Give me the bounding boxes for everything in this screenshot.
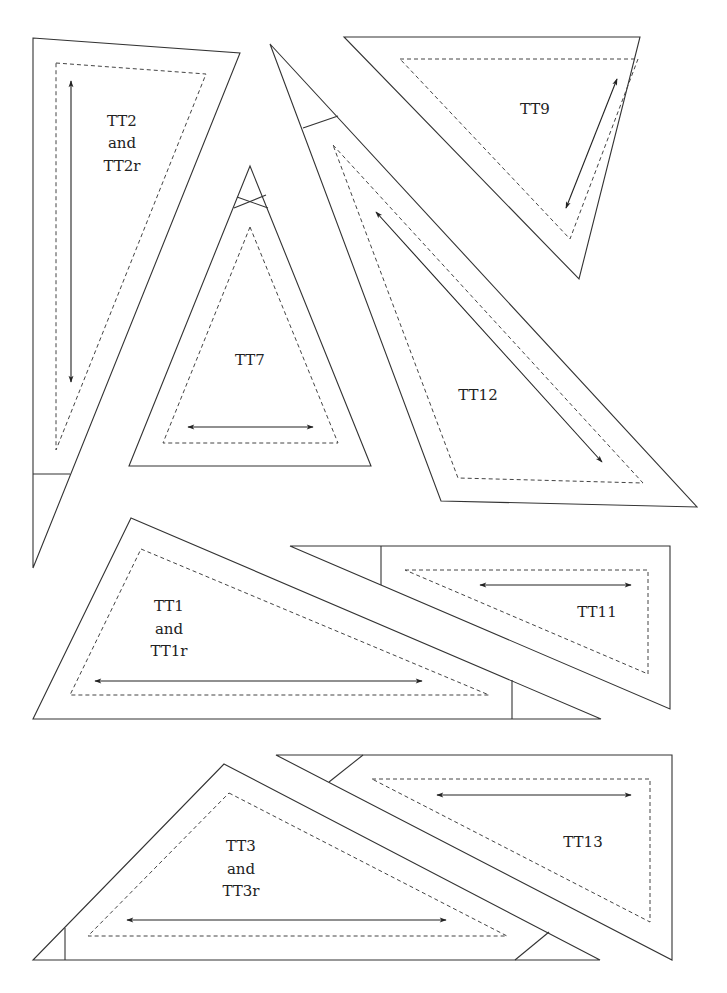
piece-tt13: TT13 xyxy=(276,755,672,960)
piece-label: and xyxy=(227,860,256,878)
piece-label: TT12 xyxy=(458,386,497,404)
seam-line xyxy=(88,793,507,936)
piece-tt9: TT9 xyxy=(344,37,640,279)
cut-line xyxy=(33,764,600,960)
piece-tt7: TT7 xyxy=(129,166,371,466)
piece-label: TT7 xyxy=(235,351,265,369)
piece-label: TT11 xyxy=(577,603,616,621)
cut-line xyxy=(33,518,601,719)
cut-line xyxy=(290,546,670,709)
grainline-arrow-icon xyxy=(376,212,602,462)
piece-label: TT2 xyxy=(107,112,137,130)
piece-label: TT1 xyxy=(154,597,184,615)
seam-line xyxy=(333,145,643,483)
piece-label: TT3r xyxy=(222,882,260,900)
piece-label: TT1r xyxy=(150,642,188,660)
cut-line xyxy=(270,44,697,507)
seam-line xyxy=(163,227,338,443)
piece-label: TT2r xyxy=(103,157,141,175)
piece-label: and xyxy=(155,620,184,638)
dog-ear-trim xyxy=(329,755,363,782)
piece-label: TT9 xyxy=(520,100,550,118)
dog-ear-trim xyxy=(515,932,549,960)
seam-line xyxy=(400,59,638,239)
piece-tt1: TT1 and TT1r xyxy=(33,518,601,719)
seam-line xyxy=(70,549,489,695)
cut-line xyxy=(129,166,371,466)
piece-label: TT13 xyxy=(563,833,602,851)
cut-line xyxy=(344,37,640,279)
dog-ear-trim xyxy=(303,116,338,128)
piece-label: and xyxy=(108,134,137,152)
piece-tt2: TT2 and TT2r xyxy=(33,38,240,568)
seam-line xyxy=(372,779,650,922)
seam-line xyxy=(405,570,648,674)
cut-line xyxy=(276,755,672,960)
piece-tt12: TT12 xyxy=(270,44,697,507)
template-sheet: TT2 and TT2r TT7 TT9 TT12 TT1 and TT1r xyxy=(0,0,727,993)
piece-label: TT3 xyxy=(226,837,256,855)
piece-tt3: TT3 and TT3r xyxy=(33,764,600,960)
grainline-arrow-icon xyxy=(566,79,617,208)
piece-tt11: TT11 xyxy=(290,546,670,709)
